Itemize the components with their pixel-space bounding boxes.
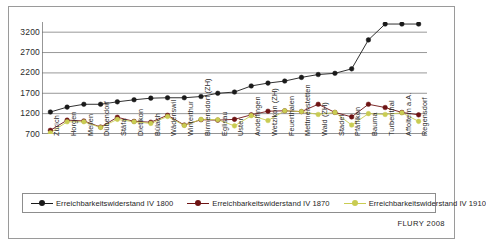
x-tick-label: Dübendorf — [103, 101, 110, 136]
x-tick-label: Affoltern a.A. — [405, 93, 412, 136]
legend-dot — [39, 200, 45, 206]
x-tick-label: Bauma — [371, 112, 378, 136]
x-tick-label: Stäfa — [120, 118, 127, 136]
x-tick-label: Wald (ZH) — [321, 102, 328, 136]
data-point — [115, 100, 120, 105]
y-tick-label: 1700 — [6, 89, 40, 98]
x-tick-label: Zürich — [53, 115, 60, 136]
legend-label: Erreichbarkeitswiderstand IV 1870 — [212, 199, 329, 208]
x-tick-label: Birmensdorf (ZH) — [204, 78, 211, 136]
x-tick-label: Uster — [237, 118, 244, 136]
data-point — [383, 22, 388, 26]
x-tick-label: Eglisau — [221, 111, 228, 136]
series-line-0 — [50, 24, 418, 112]
chart-legend: Erreichbarkeitswiderstand IV 1800Erreich… — [22, 193, 436, 213]
data-point — [416, 22, 421, 26]
legend-marker-icon — [31, 198, 53, 208]
x-tick-label: Winterthur — [187, 101, 194, 136]
legend-label: Erreichbarkeitswiderstand IV 1800 — [56, 199, 173, 208]
legend-label: Erreichbarkeitswiderstand IV 1910 — [369, 199, 486, 208]
x-tick-label: Feuerthalen — [288, 96, 295, 136]
credit-text: FLURY 2008 — [397, 219, 445, 228]
x-tick-label: Wädenswil — [170, 100, 177, 136]
y-axis-tick-labels: 70012001700220027003200 — [2, 22, 40, 134]
y-tick-label: 700 — [6, 130, 40, 139]
x-tick-label: Dietikon — [137, 109, 144, 136]
x-tick-label: Meilen — [87, 114, 94, 136]
x-tick-label: Turbenthal — [388, 100, 395, 136]
data-point — [349, 67, 354, 72]
x-tick-label: Regensdorf — [421, 97, 428, 136]
y-tick-label: 2700 — [6, 48, 40, 57]
x-tick-label: Wetzikon (ZH) — [271, 88, 278, 136]
x-axis-tick-labels: ZürichHorgenMeilenDübendorfStäfaDietikon… — [42, 136, 427, 188]
legend-item[interactable]: Erreichbarkeitswiderstand IV 1800 — [31, 198, 173, 208]
legend-dot — [195, 200, 201, 206]
y-tick-label: 1200 — [6, 109, 40, 118]
data-point — [182, 95, 187, 100]
data-point — [82, 102, 87, 107]
x-tick-label: Horgen — [70, 111, 77, 136]
y-tick-label: 3200 — [6, 28, 40, 37]
data-point — [232, 90, 237, 95]
data-point — [282, 79, 287, 84]
data-point — [299, 75, 304, 80]
data-point — [316, 72, 321, 77]
data-point — [266, 81, 271, 86]
data-point — [366, 38, 371, 43]
x-tick-label: Andelfingen — [254, 96, 261, 136]
data-point — [65, 105, 70, 110]
data-point — [215, 91, 220, 96]
x-tick-label: Pfäffikon — [354, 107, 361, 136]
y-tick-label: 2200 — [6, 68, 40, 77]
data-point — [249, 84, 254, 89]
legend-marker-icon — [344, 198, 366, 208]
legend-dot — [352, 200, 358, 206]
x-tick-label: Mettmenstetten — [304, 84, 311, 136]
data-point — [400, 22, 405, 26]
legend-marker-icon — [187, 198, 209, 208]
data-point — [132, 97, 137, 102]
data-point — [366, 102, 371, 107]
data-point — [48, 110, 53, 115]
x-tick-label: Stadel — [338, 115, 345, 136]
x-tick-label: Bülach — [154, 113, 161, 136]
data-point — [149, 96, 154, 101]
legend-item[interactable]: Erreichbarkeitswiderstand IV 1910 — [344, 198, 486, 208]
data-point — [333, 71, 338, 76]
legend-item[interactable]: Erreichbarkeitswiderstand IV 1870 — [187, 198, 329, 208]
